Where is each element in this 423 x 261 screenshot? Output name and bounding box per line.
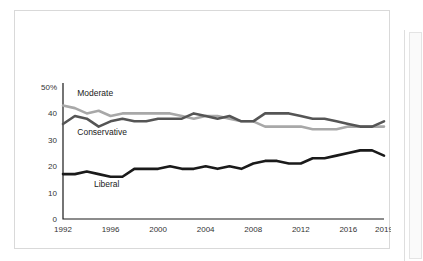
x-axis-tick-label: 1992 (54, 225, 72, 234)
page-root: 01020304050%1992199620002004200820122016… (0, 0, 423, 261)
right-panel-edge (404, 30, 423, 261)
chart-area: 01020304050%1992199620002004200820122016… (15, 11, 391, 250)
series-label-conservative: Conservative (77, 127, 127, 137)
series-label-liberal: Liberal (94, 179, 120, 189)
x-axis-tick-label: 2000 (149, 225, 167, 234)
x-axis-tick-label: 2016 (339, 225, 357, 234)
series-label-moderate: Moderate (77, 88, 113, 98)
y-axis-tick-label: 0 (53, 215, 58, 224)
y-axis-tick-label: 50% (41, 83, 57, 92)
y-axis-tick-label: 30 (48, 136, 57, 145)
line-chart: 01020304050%1992199620002004200820122016… (15, 11, 391, 250)
x-axis-tick-label: 2004 (197, 225, 215, 234)
y-axis-tick-label: 40 (48, 109, 57, 118)
chart-axes (63, 83, 384, 219)
y-axis-tick-label: 10 (48, 189, 57, 198)
chart-card: 01020304050%1992199620002004200820122016… (14, 10, 390, 249)
x-axis-tick-label: 2012 (292, 225, 310, 234)
x-axis-tick-label: 1996 (102, 225, 120, 234)
x-axis-tick-label: 2008 (244, 225, 262, 234)
y-axis-tick-label: 20 (48, 162, 57, 171)
series-line-liberal (63, 150, 384, 176)
x-axis-tick-label: 2019 (375, 225, 391, 234)
right-panel-strip (409, 32, 422, 259)
